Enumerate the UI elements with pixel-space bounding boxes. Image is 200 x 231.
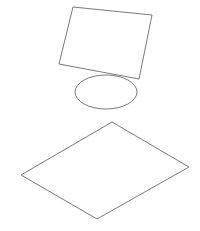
parallelogram-shape — [59, 7, 152, 79]
ellipse-shape — [75, 75, 137, 109]
shapes-svg — [0, 0, 200, 231]
diamond-shape — [21, 122, 189, 219]
diagram-canvas — [0, 0, 200, 231]
